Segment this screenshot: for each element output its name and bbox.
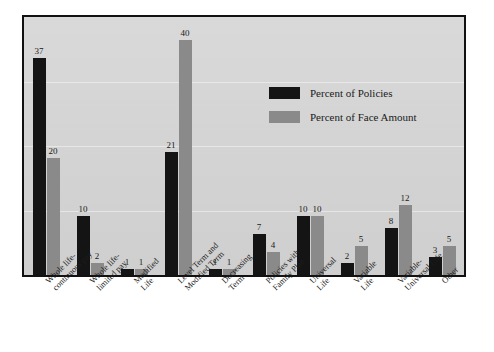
legend-label: Percent of Face Amount bbox=[310, 111, 417, 123]
x-tick-label: UniversalLife bbox=[308, 279, 321, 292]
x-tick-line2: continuous pay bbox=[51, 286, 58, 293]
x-tick-label: DecreasingTerm bbox=[220, 279, 233, 292]
legend-item-policies: Percent of Policies bbox=[269, 83, 417, 102]
bar: 20 bbox=[47, 158, 60, 275]
x-tick-line2: Life bbox=[359, 286, 366, 293]
x-tick-line2: Term bbox=[227, 286, 234, 293]
bar: 37 bbox=[33, 58, 46, 275]
plot-area: 3720102112140117410102581235 Percent of … bbox=[24, 17, 464, 275]
bar-value-label: 21 bbox=[167, 140, 176, 151]
x-tick-label: Whole life-limited pay bbox=[88, 279, 101, 292]
plot-frame: 3720102112140117410102581235 Percent of … bbox=[22, 15, 466, 277]
bar: 21 bbox=[165, 152, 178, 275]
bar-value-label: 10 bbox=[299, 204, 308, 215]
bar: 8 bbox=[385, 228, 398, 275]
x-tick-line2: Life bbox=[139, 286, 146, 293]
x-tick-label: Level Term andModified Term bbox=[176, 279, 189, 292]
bars-layer: 3720102112140117410102581235 bbox=[24, 17, 464, 275]
bar-group: 1010 bbox=[297, 17, 324, 275]
bar: 7 bbox=[253, 234, 266, 275]
bar-value-label: 2 bbox=[95, 251, 100, 262]
bar-value-label: 5 bbox=[447, 234, 452, 245]
bar-value-label: 12 bbox=[401, 193, 410, 204]
bar-value-label: 8 bbox=[389, 216, 394, 227]
bar-value-label: 20 bbox=[49, 146, 58, 157]
bar-value-label: 7 bbox=[257, 222, 262, 233]
bar-value-label: 10 bbox=[313, 204, 322, 215]
x-tick-label: Whole life-continuous pay bbox=[44, 279, 57, 292]
bar-value-label: 37 bbox=[35, 46, 44, 57]
x-tick-line2: Modified Term bbox=[183, 286, 190, 293]
bar-group: 3720 bbox=[33, 17, 60, 275]
gray-swatch-icon bbox=[269, 111, 300, 123]
bar-group: 11 bbox=[209, 17, 236, 275]
chart-legend: Percent of Policies Percent of Face Amou… bbox=[269, 83, 417, 131]
bar: 2 bbox=[341, 263, 354, 275]
black-swatch-icon bbox=[269, 87, 300, 99]
bar-group: 2140 bbox=[165, 17, 192, 275]
bar-value-label: 40 bbox=[181, 28, 190, 39]
bar-chart-figure: 3720102112140117410102581235 Percent of … bbox=[0, 0, 494, 352]
bar-group: 25 bbox=[341, 17, 368, 275]
x-tick-line2: Family Plan bbox=[271, 286, 278, 293]
x-tick-line2: limited pay bbox=[95, 286, 102, 293]
bar: 40 bbox=[179, 40, 192, 275]
bar-group: 11 bbox=[121, 17, 148, 275]
x-tick-label: VariableLife bbox=[352, 279, 365, 292]
bar-value-label: 5 bbox=[359, 234, 364, 245]
x-axis-tick-labels: Whole life-continuous payWhole life-limi… bbox=[22, 279, 466, 352]
x-tick-label: Variable-Universal Life bbox=[396, 279, 409, 292]
x-tick-line2: Universal Life bbox=[403, 286, 410, 293]
x-tick-label: Other bbox=[440, 279, 447, 286]
legend-label: Percent of Policies bbox=[310, 87, 392, 99]
x-tick-label: Policies withFamily Plan bbox=[264, 279, 277, 292]
bar-value-label: 4 bbox=[271, 240, 276, 251]
bar-group: 102 bbox=[77, 17, 104, 275]
bar-group: 812 bbox=[385, 17, 412, 275]
bar-value-label: 2 bbox=[345, 251, 350, 262]
legend-item-face-amount: Percent of Face Amount bbox=[269, 107, 417, 126]
bar-group: 74 bbox=[253, 17, 280, 275]
bar-group: 35 bbox=[429, 17, 456, 275]
x-tick-line2: Life bbox=[315, 286, 322, 293]
x-tick-label: ModifiedLife bbox=[132, 279, 145, 292]
bar-value-label: 10 bbox=[79, 204, 88, 215]
